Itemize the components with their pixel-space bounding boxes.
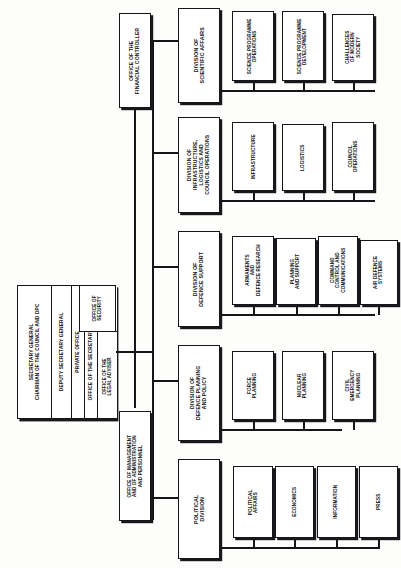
subunit-stub-information: [336, 537, 338, 548]
subunit-stub-council-operations: [353, 190, 355, 201]
box-political-affairs[interactable]: POLITICAL AFFAIRS: [233, 466, 273, 538]
box-press[interactable]: PRESS: [359, 466, 398, 538]
box-challenges-of-modern-society[interactable]: CHALLENGES OF MODERN SOCIETY: [332, 14, 374, 81]
subunit-stub-infrastructure: [253, 190, 255, 201]
box-office-of-security[interactable]: OFFICE OF SECURITY: [79, 285, 116, 332]
connector-trunk-to-scientific-affairs: [152, 40, 179, 42]
sidebar-item-secretary-general[interactable]: SECRETARY GENERAL CHAIRMAN OF THE COUNCI…: [18, 286, 51, 418]
secretary-general-label: SECRETARY GENERAL CHAIRMAN OF THE COUNCI…: [29, 304, 41, 401]
subunit-stub-air-defence-systems: [378, 304, 380, 315]
planning-and-support-label: PLANNING AND SUPPORT: [291, 254, 302, 289]
office-of-the-financial-controller-label: OFFICE OF THE FINANCIAL CONTROLLER: [129, 27, 141, 94]
connector-trunk-to-defence-planning: [152, 380, 179, 382]
connector-trunk-to-defence-support: [152, 266, 179, 268]
deputy-secretary-general-label: DEPUTY SECRETARY GENERAL: [59, 313, 65, 392]
sidebar-item-office-of-the-legal-adviser[interactable]: OFFICE OF THE LEGAL ADVISER: [98, 332, 117, 420]
box-science-programme-development[interactable]: SCIENCE PROGRAMME DEVELOPMENT: [282, 11, 324, 81]
subunit-stub-command-control-and-communications: [338, 304, 340, 315]
subunit-stub-nuclear-planning: [303, 419, 305, 430]
box-division-of-scientific-affairs[interactable]: DIVISION OF SCIENTIFIC AFFAIRS: [178, 8, 220, 103]
box-nuclear-planning[interactable]: NUCLEAR PLANNING: [282, 351, 324, 420]
connector-main-trunk: [152, 40, 154, 520]
connector-financial-controller-stub: [134, 108, 136, 408]
office-of-the-legal-adviser-label: OFFICE OF THE LEGAL ADVISER: [102, 357, 113, 395]
political-division-label: POLITICAL DIVISION: [193, 494, 206, 524]
connector-trunk-to-political-division: [152, 497, 179, 499]
box-science-programme-operations[interactable]: SCIENCE PROGRAMME OPERATIONS: [232, 11, 274, 81]
science-programme-operations-label: SCIENCE PROGRAMME OPERATIONS: [248, 18, 259, 74]
subunit-stub-press: [378, 537, 380, 548]
box-information[interactable]: INFORMATION: [317, 466, 356, 538]
information-label: INFORMATION: [334, 485, 339, 519]
science-programme-development-label: SCIENCE PROGRAMME DEVELOPMENT: [298, 18, 309, 74]
box-civil-emergency-planning[interactable]: CIVIL EMERGENCY PLANNING: [332, 351, 374, 420]
division-of-infrastructure-label: DIVISION OF INFRASTRUCTURE, LOGISTICS AN…: [187, 135, 211, 195]
subunit-stub-civil-emergency-planning: [353, 419, 355, 430]
subunit-stub-economics: [294, 537, 296, 548]
box-air-defence-systems[interactable]: AIR DEFENCE SYSTEMS: [360, 240, 398, 305]
infrastructure-label: INFRASTRUCTURE: [250, 134, 255, 179]
division-of-defence-support-label: DIVISION OF DEFENCE SUPPORT: [193, 251, 206, 306]
subunit-rail-infrastructure: [220, 200, 375, 202]
subunit-stub-challenges-of-modern-society: [353, 80, 355, 91]
subunit-stub-force-planning: [253, 419, 255, 430]
civil-emergency-planning-label: CIVIL EMERGENCY PLANNING: [345, 370, 361, 401]
connector-trunk-to-infrastructure: [152, 152, 179, 154]
box-office-of-the-financial-controller[interactable]: OFFICE OF THE FINANCIAL CONTROLLER: [119, 13, 151, 108]
box-economics[interactable]: ECONOMICS: [275, 466, 314, 538]
nuclear-planning-label: NUCLEAR PLANNING: [298, 373, 309, 398]
box-armaments-and-defence-research[interactable]: ARMAMENTS AND DEFENCE RESEARCH: [232, 236, 274, 305]
box-logistics[interactable]: LOGISTICS: [282, 124, 324, 191]
office-of-management-label: OFFICE OF MANAGEMENT AND OF ADMINISTRATI…: [127, 435, 143, 498]
box-office-of-management-and-administration[interactable]: OFFICE OF MANAGEMENT AND OF ADMINISTRATI…: [119, 411, 151, 521]
box-council-operations[interactable]: COUNCIL OPERATIONS: [332, 122, 374, 191]
challenges-of-modern-society-label: CHALLENGES OF MODERN SOCIETY: [345, 31, 361, 64]
box-division-of-defence-support[interactable]: DIVISION OF DEFENCE SUPPORT: [178, 231, 220, 327]
command-control-and-communications-label: COMMAND CONTROL AND COMMUNICATIONS: [330, 248, 346, 293]
subunit-rail-scientific-affairs: [220, 90, 375, 92]
force-planning-label: FORCE PLANNING: [248, 373, 259, 398]
subunit-rail-political-division: [220, 547, 380, 549]
subunit-stub-logistics: [303, 190, 305, 201]
subunit-stub-science-programme-operations: [253, 80, 255, 91]
political-affairs-label: POLITICAL AFFAIRS: [248, 489, 259, 515]
division-of-scientific-affairs-label: DIVISION OF SCIENTIFIC AFFAIRS: [193, 27, 206, 84]
box-force-planning[interactable]: FORCE PLANNING: [232, 351, 274, 420]
division-of-defence-planning-and-policy-label: DIVISION OF DEFENCE PLANNING AND POLICY: [190, 366, 208, 420]
office-of-security-label: OFFICE OF SECURITY: [92, 295, 103, 321]
subunit-stub-political-affairs: [253, 537, 255, 548]
armaments-and-defence-research-label: ARMAMENTS AND DEFENCE RESEARCH: [245, 245, 261, 297]
private-office-label: PRIVATE OFFICE: [75, 331, 81, 373]
press-label: PRESS: [376, 494, 381, 510]
box-command-control-and-communications[interactable]: COMMAND CONTROL AND COMMUNICATIONS: [318, 236, 358, 305]
org-chart: SECRETARY GENERAL CHAIRMAN OF THE COUNCI…: [0, 0, 401, 568]
box-planning-and-support[interactable]: PLANNING AND SUPPORT: [276, 238, 316, 305]
council-operations-label: COUNCIL OPERATIONS: [348, 141, 359, 173]
subunit-stub-science-programme-development: [303, 80, 305, 91]
sidebar-item-deputy-secretary-general[interactable]: DEPUTY SECRETARY GENERAL: [51, 286, 71, 418]
subunit-rail-defence-planning: [220, 429, 342, 431]
box-infrastructure[interactable]: INFRASTRUCTURE: [232, 122, 274, 191]
subunit-stub-planning-and-support: [296, 304, 298, 315]
box-division-of-infrastructure[interactable]: DIVISION OF INFRASTRUCTURE, LOGISTICS AN…: [178, 117, 220, 213]
box-political-division[interactable]: POLITICAL DIVISION: [178, 459, 220, 559]
box-division-of-defence-planning-and-policy[interactable]: DIVISION OF DEFENCE PLANNING AND POLICY: [178, 345, 220, 441]
air-defence-systems-label: AIR DEFENCE SYSTEMS: [374, 256, 385, 289]
economics-label: ECONOMICS: [292, 487, 297, 517]
subunit-stub-armaments-and-defence-research: [253, 304, 255, 315]
logistics-label: LOGISTICS: [300, 144, 305, 170]
